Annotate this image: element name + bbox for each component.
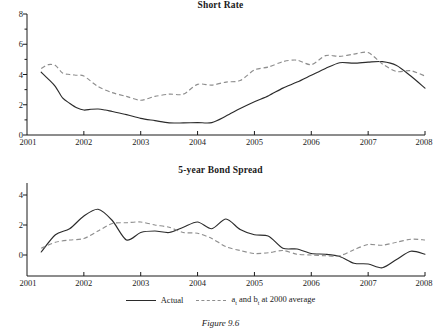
y-tick-label: 6 xyxy=(9,39,23,49)
x-tick-label: 2003 xyxy=(132,137,149,147)
y-tick-label: 4 xyxy=(9,190,23,200)
y-axis-labels-bottom: 024 xyxy=(0,165,23,290)
chart-panel-bond-spread: 5-year Bond Spread 024 20012002200320042… xyxy=(0,165,441,290)
x-tick-label: 2004 xyxy=(189,137,206,147)
y-tick-label: 4 xyxy=(9,70,23,80)
plot-area-short-rate xyxy=(27,14,425,135)
chart-legend: Actual at and bt at 2000 average xyxy=(0,292,441,308)
x-tick-label: 2001 xyxy=(20,137,37,147)
legend-swatch-solid-line-icon xyxy=(126,300,156,301)
y-axis-labels-top: 02468 xyxy=(0,0,23,158)
x-tick-label: 2006 xyxy=(303,137,320,147)
x-axis-labels-top: 20012002200320042005200620072008 xyxy=(0,137,441,149)
series-line-actual xyxy=(41,209,425,268)
y-tick-label: 2 xyxy=(9,220,23,230)
x-tick-label: 2005 xyxy=(246,278,263,288)
legend-label-model: at and bt at 2000 average xyxy=(231,294,315,306)
chart-title-short-rate: Short Rate xyxy=(0,0,441,10)
x-tick-label: 2004 xyxy=(189,278,206,288)
figure-caption: Figure 9.6 xyxy=(0,318,441,328)
series-line-model xyxy=(41,52,425,100)
x-tick-label: 2008 xyxy=(415,278,432,288)
plot-area-bond-spread xyxy=(27,183,425,276)
chart-panel-short-rate: Short Rate 02468 20012002200320042005200… xyxy=(0,0,441,158)
legend-label-actual: Actual xyxy=(161,295,184,305)
x-axis-labels-bottom: 20012002200320042005200620072008 xyxy=(0,278,441,290)
x-tick-label: 2007 xyxy=(360,137,377,147)
legend-item-actual: Actual xyxy=(126,295,184,305)
series-line-actual xyxy=(41,61,425,123)
legend-swatch-dashed-line-icon xyxy=(196,300,226,301)
legend-label-model-suffix: at 2000 average xyxy=(259,294,315,304)
legend-item-model: at and bt at 2000 average xyxy=(196,294,315,306)
series-line-model xyxy=(41,222,425,256)
legend-label-model-mid: and b xyxy=(237,294,258,304)
x-tick-label: 2007 xyxy=(360,278,377,288)
y-tick-label: 0 xyxy=(9,250,23,260)
x-tick-label: 2005 xyxy=(246,137,263,147)
x-tick-label: 2006 xyxy=(303,278,320,288)
x-tick-label: 2008 xyxy=(415,137,432,147)
chart-title-bond-spread: 5-year Bond Spread xyxy=(0,165,441,175)
x-tick-label: 2002 xyxy=(75,278,92,288)
x-tick-label: 2003 xyxy=(132,278,149,288)
figure-9-6: Short Rate 02468 20012002200320042005200… xyxy=(0,0,441,331)
y-tick-label: 8 xyxy=(9,9,23,19)
x-tick-label: 2001 xyxy=(20,278,37,288)
x-tick-label: 2002 xyxy=(75,137,92,147)
y-tick-label: 2 xyxy=(9,100,23,110)
